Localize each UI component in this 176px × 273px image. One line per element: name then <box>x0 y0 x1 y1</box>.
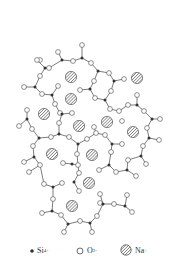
oxygen-atom <box>120 142 125 147</box>
silicon-atom <box>51 210 54 213</box>
oxygen-atom <box>108 107 113 112</box>
oxygen-atom <box>90 230 95 235</box>
sodium-ion <box>65 93 76 104</box>
oxygen-atom <box>103 133 108 138</box>
oxygen-atom <box>42 182 47 187</box>
oxygen-atom <box>75 152 80 157</box>
sodium-ion <box>127 126 138 137</box>
silicon-atom <box>151 118 154 121</box>
oxygen-atom <box>56 50 61 55</box>
oxygen-atom <box>93 96 98 101</box>
silicon-atom <box>33 156 36 159</box>
silicon-atom <box>136 104 139 107</box>
oxygen-atom <box>38 163 43 168</box>
oxygen-atom <box>76 163 81 168</box>
bond-line <box>40 165 44 184</box>
oxygen-atom <box>109 150 114 155</box>
sodium-ion <box>38 108 49 119</box>
oxygen-atom <box>141 144 146 149</box>
oxygen-atom <box>31 144 36 149</box>
silicon-atom <box>44 67 47 70</box>
sodium-ion <box>46 148 57 159</box>
silicon-atom <box>73 181 76 184</box>
oxygen-atom <box>40 211 45 216</box>
silicon-atom <box>102 203 105 206</box>
oxygen-atom <box>22 85 27 90</box>
sodium-ion <box>83 177 94 188</box>
silicon-atom <box>51 94 54 97</box>
oxygen-atom <box>145 126 150 131</box>
silicon-atom <box>140 155 143 158</box>
oxygen-atom <box>61 161 66 166</box>
oxygen-atom <box>95 214 100 219</box>
open-circle-icon <box>76 247 84 255</box>
oxygen-atom <box>77 171 82 176</box>
oxygen-atom <box>107 71 112 76</box>
oxygen-atom <box>22 160 27 165</box>
oxygen-atom <box>130 210 135 215</box>
silicon-atom <box>113 80 116 83</box>
sodium-ion <box>101 116 112 127</box>
silicon-atom <box>61 59 64 62</box>
silicon-atom <box>52 186 55 189</box>
oxygen-atom <box>114 170 119 175</box>
silicon-atom <box>126 169 129 172</box>
oxygen-atom <box>30 127 35 132</box>
oxygen-atom <box>117 109 122 114</box>
silicon-atom <box>111 143 114 146</box>
oxygen-atom <box>47 66 52 71</box>
oxygen-atom <box>71 59 76 64</box>
oxygen-atom <box>70 111 75 116</box>
legend-item-na: Na+ <box>120 244 147 256</box>
silicon-atom <box>97 70 100 73</box>
hatched-circle-icon <box>120 244 132 256</box>
oxygen-atom <box>122 77 127 82</box>
silicate-network-diagram <box>0 0 176 273</box>
oxygen-atom <box>98 192 103 197</box>
oxygen-atom <box>85 137 90 142</box>
sodium-ion <box>86 149 97 160</box>
oxygen-atom <box>60 181 65 186</box>
silicon-atom <box>124 205 127 208</box>
sodium-ion <box>65 71 76 82</box>
legend: Si4+ O2- Na+ <box>0 246 176 262</box>
silicon-atom <box>108 164 111 167</box>
oxygen-atom <box>134 174 139 179</box>
legend-item-o: O2- <box>76 246 97 255</box>
oxygen-atom <box>51 197 56 202</box>
oxygen-atom <box>112 202 117 207</box>
silicon-atom <box>148 137 151 140</box>
oxygen-atom <box>80 43 85 48</box>
oxygen-atom <box>17 124 22 129</box>
oxygen-atom <box>97 168 102 173</box>
silicon-atom <box>81 57 84 60</box>
oxygen-atom <box>56 84 61 89</box>
oxygen-atom <box>135 93 140 98</box>
silicon-atom <box>34 86 37 89</box>
oxygen-atom <box>62 230 67 235</box>
oxygen-atom <box>67 135 72 140</box>
oxygen-atom <box>78 219 83 224</box>
oxygen-atom <box>142 109 147 114</box>
silicon-atom <box>67 223 70 226</box>
oxygen-atom <box>125 193 130 198</box>
silicon-atom <box>77 143 80 146</box>
oxygen-atom <box>144 162 149 167</box>
oxygen-atom <box>53 102 58 107</box>
oxygen-atom <box>77 189 82 194</box>
oxygen-atom <box>157 138 162 143</box>
oxygen-atom <box>57 121 62 126</box>
sodium-ion <box>66 200 77 211</box>
silicon-atom <box>89 222 92 225</box>
silicon-atom <box>71 163 74 166</box>
filled-dot-icon <box>29 248 35 254</box>
oxygen-atom <box>78 88 83 93</box>
oxygen-atom <box>126 158 131 163</box>
oxygen-atom <box>158 117 163 122</box>
oxygen-atom <box>40 92 45 97</box>
silicon-atom <box>89 88 92 91</box>
silicon-atom <box>26 118 29 121</box>
oxygen-atom <box>109 89 114 94</box>
oxygen-atom <box>38 74 43 79</box>
legend-item-si: Si4+ <box>29 246 49 255</box>
